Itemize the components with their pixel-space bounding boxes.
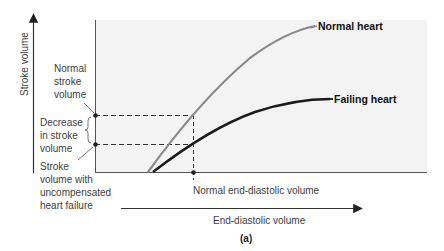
normal-edv-label: Normal end-diastolic volume [193, 185, 319, 197]
normal-sv-label-line1: Normal [54, 63, 86, 75]
normal-sv-label-line3: volume [54, 89, 86, 101]
failure-sv-label-line1: Stroke [40, 161, 69, 173]
x-axis-label: End-diastolic volume [213, 215, 305, 227]
failure-sv-label-line4: heart failure [40, 200, 93, 212]
normal-sv-leader [84, 103, 94, 113]
normal-heart-label: Normal heart [318, 20, 383, 32]
failure-sv-label-line3: uncompensated [40, 187, 111, 199]
normal-sv-dot [93, 113, 98, 118]
panel-label: (a) [240, 233, 252, 245]
normal-sv-label-line2: stroke [54, 76, 81, 88]
failure-sv-dot [93, 142, 98, 147]
normal-edv-dot [191, 170, 196, 175]
failure-sv-leader [78, 147, 93, 160]
y-axis-label: Stroke volume [19, 32, 30, 96]
decrease-brace [85, 117, 91, 143]
decrease-label-line3: volume [40, 143, 72, 155]
decrease-label-line2: in stroke [40, 130, 78, 142]
decrease-label-line1: Decrease [40, 117, 83, 129]
failing-heart-label: Failing heart [334, 93, 396, 105]
failure-sv-label-line2: volume with [40, 174, 93, 186]
